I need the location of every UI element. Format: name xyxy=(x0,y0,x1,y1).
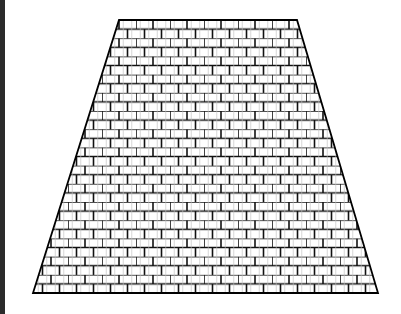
trapezoid-shape xyxy=(33,20,378,293)
brick-trapezoid xyxy=(0,0,401,314)
